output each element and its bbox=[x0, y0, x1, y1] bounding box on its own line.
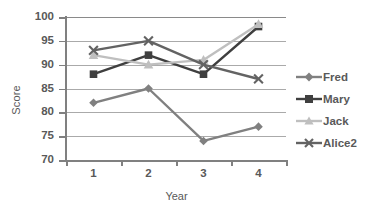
square-data-point bbox=[200, 70, 208, 78]
square-marker-icon bbox=[296, 91, 322, 107]
legend-item-jack[interactable]: Jack bbox=[296, 110, 384, 132]
diamond-data-point bbox=[89, 99, 98, 108]
series-fred bbox=[89, 84, 263, 145]
square-data-point bbox=[90, 70, 98, 78]
diamond-data-point bbox=[254, 122, 263, 131]
legend-label-alice2: Alice2 bbox=[322, 137, 357, 149]
series-mary bbox=[90, 23, 263, 78]
legend: Fred Mary Jack Alice2 bbox=[296, 66, 384, 154]
line-chart: Score 100 95 90 85 80 75 70 1 2 3 4 Year bbox=[0, 0, 386, 218]
x-marker-icon bbox=[296, 135, 322, 151]
triangle-marker-icon bbox=[296, 113, 322, 129]
legend-label-jack: Jack bbox=[322, 115, 349, 127]
series-line-jack bbox=[94, 24, 259, 65]
legend-item-alice2[interactable]: Alice2 bbox=[296, 132, 384, 154]
legend-item-fred[interactable]: Fred bbox=[296, 66, 384, 88]
legend-item-mary[interactable]: Mary bbox=[296, 88, 384, 110]
legend-label-fred: Fred bbox=[322, 71, 348, 83]
series-line-fred bbox=[94, 89, 259, 141]
diamond-marker-icon bbox=[296, 69, 322, 85]
series-line-mary bbox=[94, 27, 259, 75]
legend-label-mary: Mary bbox=[322, 93, 350, 105]
square-data-point bbox=[145, 51, 153, 59]
